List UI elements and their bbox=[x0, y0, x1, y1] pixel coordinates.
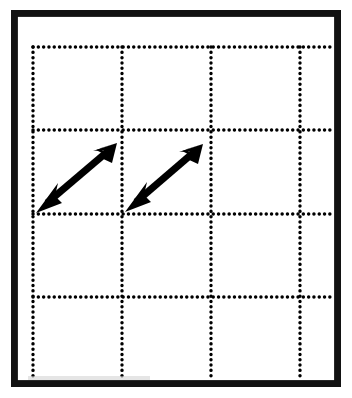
dotted-grid-arrows-figure: Dotted grid with two parallel double-hea… bbox=[0, 0, 352, 398]
figure-root: Dotted grid with two parallel double-hea… bbox=[0, 0, 352, 398]
scan-smudge bbox=[28, 376, 150, 380]
